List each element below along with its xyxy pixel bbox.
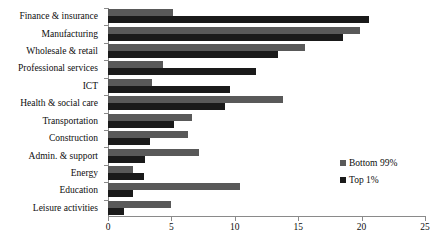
bar-top1 [108, 16, 369, 23]
y-axis-label: Admin. & support [0, 151, 98, 161]
bar-bottom99 [108, 61, 163, 68]
bar-bottom99 [108, 183, 240, 190]
y-axis-label: Manufacturing [0, 29, 98, 39]
y-axis-label: Leisure activities [0, 203, 98, 213]
x-axis-tick [425, 217, 426, 221]
x-axis-tick [298, 217, 299, 221]
bar-bottom99 [108, 96, 283, 103]
bar-top1 [108, 34, 343, 41]
y-axis-label: Energy [0, 168, 98, 178]
x-axis-tick [235, 217, 236, 221]
bar-bottom99 [108, 79, 152, 86]
legend-label-bottom99: Bottom 99% [349, 158, 397, 168]
chart-legend: Bottom 99% Top 1% [340, 158, 397, 192]
y-axis-label: Transportation [0, 116, 98, 126]
y-axis-label: Health & social care [0, 98, 98, 108]
x-axis-label: 15 [293, 222, 303, 233]
bar-bottom99 [108, 27, 360, 34]
y-axis-labels: Finance & insuranceManufacturingWholesal… [0, 8, 104, 217]
y-axis-label: Construction [0, 133, 98, 143]
bar-bottom99 [108, 9, 173, 16]
bar-bottom99 [108, 149, 199, 156]
legend-item-top1: Top 1% [340, 175, 397, 185]
x-axis-label: 10 [230, 222, 240, 233]
legend-swatch-top1 [340, 177, 346, 183]
bar-top1 [108, 173, 144, 180]
x-axis-tick [362, 217, 363, 221]
bar-top1 [108, 68, 256, 75]
bar-top1 [108, 103, 225, 110]
x-axis-label: 20 [357, 222, 367, 233]
bar-top1 [108, 121, 174, 128]
legend-swatch-bottom99 [340, 160, 346, 166]
legend-item-bottom99: Bottom 99% [340, 158, 397, 168]
y-axis-label: ICT [0, 81, 98, 91]
bar-chart: Finance & insuranceManufacturingWholesal… [0, 0, 440, 243]
bar-bottom99 [108, 114, 192, 121]
legend-label-top1: Top 1% [349, 175, 379, 185]
bar-bottom99 [108, 131, 188, 138]
y-axis-label: Education [0, 185, 98, 195]
bar-top1 [108, 190, 133, 197]
x-axis-label: 5 [169, 222, 174, 233]
x-axis-label: 25 [420, 222, 430, 233]
x-axis-tick [171, 217, 172, 221]
bar-bottom99 [108, 166, 133, 173]
bar-top1 [108, 208, 124, 215]
bar-top1 [108, 86, 230, 93]
y-axis-label: Wholesale & retail [0, 46, 98, 56]
bar-bottom99 [108, 201, 171, 208]
bar-top1 [108, 51, 278, 58]
bar-top1 [108, 138, 150, 145]
bar-top1 [108, 156, 145, 163]
x-axis-tick [108, 217, 109, 221]
y-axis-label: Finance & insurance [0, 11, 98, 21]
bar-bottom99 [108, 44, 305, 51]
y-axis-label: Professional services [0, 63, 98, 73]
x-axis-label: 0 [106, 222, 111, 233]
